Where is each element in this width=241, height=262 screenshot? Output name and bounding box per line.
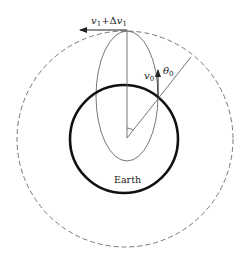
launch-angle-label: θ0 [163, 65, 174, 78]
orbit-diagram: v1+Δv1 v0 θ0 Earth [0, 0, 241, 262]
diagonal-radius-line [127, 57, 191, 138]
outer-dashed-orbit [17, 31, 233, 247]
earth-label: Earth [114, 174, 141, 185]
launch-velocity-label: v0 [144, 70, 154, 83]
apogee-velocity-label: v1+Δv1 [91, 15, 127, 28]
center-angle-arc [127, 128, 133, 130]
